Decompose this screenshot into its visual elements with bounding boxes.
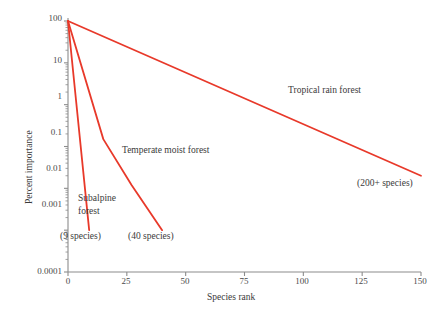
series-label-temperate-moist-forest: Temperate moist forest (122, 145, 209, 155)
x-axis-title: Species rank (207, 292, 255, 302)
x-tick-label-100: 100 (292, 276, 312, 286)
y-tick-label-0-01: 0.01 (22, 163, 62, 173)
y-tick-label-0-001: 0.001 (18, 199, 62, 209)
y-tick-label-1: 1 (22, 91, 62, 101)
y-tick-label-0-1: 0.1 (22, 127, 62, 137)
series-label-subalpine-forest-line2: forest (78, 206, 100, 216)
annotation-40-species: (40 species) (128, 231, 174, 241)
x-tick-label-125: 125 (351, 276, 371, 286)
annotation-200-species: (200+ species) (357, 178, 413, 188)
axes-group (68, 18, 421, 272)
rank-abundance-chart: Percent importance 100 10 1 0.1 0.01 0.0… (0, 0, 437, 313)
x-tick-label-150: 150 (410, 276, 430, 286)
series-lines (68, 21, 421, 230)
x-tick-label-50: 50 (175, 276, 195, 286)
chart-canvas (0, 0, 437, 313)
series-label-subalpine-forest-line1: Subalpine (78, 193, 116, 203)
y-axis-title: Percent importance (11, 96, 25, 206)
x-tick-label-25: 25 (116, 276, 136, 286)
x-tick-label-75: 75 (234, 276, 254, 286)
y-tick-label-0-0001: 0.0001 (14, 266, 62, 276)
series-line-tropical-rain-forest (68, 21, 421, 176)
series-label-tropical-rain-forest: Tropical rain forest (288, 85, 361, 95)
annotation-9-species: (9 species) (60, 231, 101, 241)
y-tick-label-100: 100 (22, 13, 62, 23)
y-tick-label-10: 10 (22, 55, 62, 65)
x-tick-label-0: 0 (58, 276, 78, 286)
